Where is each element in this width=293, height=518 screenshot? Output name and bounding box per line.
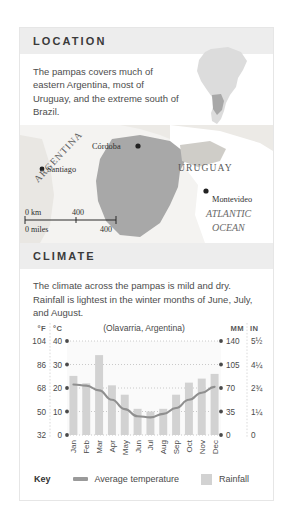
scale-km-value: 400 [72,208,84,217]
month-label: Jan [69,440,78,453]
month-label: Jun [134,440,143,453]
map-country-label: URUGUAY [178,162,233,173]
chart-legend: Key Average temperature Rainfall [20,470,273,488]
legend-item-rainfall: Rainfall [201,474,249,485]
svg-text:50: 50 [37,408,47,417]
month-label: Feb [82,439,91,453]
location-section-body: The pampas covers much of eastern Argent… [20,54,273,125]
svg-text:°F: °F [38,324,46,333]
legend-key-label: Key [34,474,51,484]
city-dot-cordoba [135,143,140,148]
month-label: Sep [172,439,181,454]
svg-text:68: 68 [37,384,47,393]
month-label: Nov [198,440,207,454]
svg-text:105: 105 [226,361,240,370]
svg-text:(Olavarria, Argentina): (Olavarria, Argentina) [103,323,185,333]
regional-map: Córdoba Santiago Montevideo ARGENTINA UR… [20,125,273,243]
month-label: Mar [95,440,104,454]
info-card: LOCATION The pampas covers much of easte… [20,28,273,500]
month-label: Jul [146,440,155,450]
svg-text:°C: °C [53,324,62,333]
location-description: The pampas covers much of eastern Argent… [33,65,183,119]
month-label: May [121,440,130,455]
svg-text:30: 30 [53,361,63,370]
legend-line-swatch [73,477,88,481]
svg-text:32: 32 [37,431,47,440]
map-city-label: Montevideo [212,195,252,204]
svg-text:140: 140 [226,337,240,346]
svg-text:20: 20 [53,384,63,393]
rainfall-bar [95,355,103,435]
rainfall-bar [121,395,129,435]
month-label: Aug [159,440,168,454]
svg-text:86: 86 [37,361,47,370]
scale-miles-value: 400 [100,225,112,234]
svg-text:104: 104 [32,337,46,346]
svg-text:10: 10 [53,408,63,417]
svg-text:4¼: 4¼ [251,361,263,370]
svg-text:70: 70 [226,384,236,393]
rainfall-bar [82,383,90,435]
month-label: Dec [211,440,220,454]
rainfall-bar [172,395,180,435]
svg-text:5½: 5½ [251,337,263,346]
legend-temperature-label: Average temperature [95,474,179,484]
svg-text:1¼: 1¼ [251,408,263,417]
map-ocean-label-2: OCEAN [212,222,246,233]
rainfall-bar [211,374,219,435]
map-city-label: Córdoba [92,142,121,151]
climate-section-header: CLIMATE [20,243,273,269]
svg-text:0: 0 [251,431,256,440]
scale-miles-label: 0 miles [25,225,48,234]
map-ocean-label: ATLANTIC [205,208,252,219]
legend-item-temperature: Average temperature [73,474,179,484]
svg-text:0: 0 [57,431,62,440]
svg-text:35: 35 [226,408,236,417]
city-dot-montevideo [203,188,208,193]
rainfall-bar [185,383,193,435]
location-header-label: LOCATION [33,35,106,47]
svg-text:40: 40 [53,337,63,346]
rainfall-bar [134,409,142,435]
climate-header-label: CLIMATE [33,250,96,262]
climate-chart: °F°CMMIN(Olavarria, Argentina)104401405½… [20,319,273,459]
svg-text:2¾: 2¾ [251,384,263,393]
scale-km-label: 0 km [25,208,42,217]
south-america-inset-map-icon [181,45,267,131]
month-label: Apr [108,440,117,453]
climate-description: The climate across the pampas is mild an… [33,279,261,320]
rainfall-bar [146,412,154,436]
svg-text:IN: IN [250,324,258,333]
legend-bar-swatch [201,474,212,485]
rainfall-bar [108,385,116,435]
svg-text:0: 0 [226,431,231,440]
legend-rainfall-label: Rainfall [219,474,249,484]
svg-text:MM: MM [231,324,244,333]
climate-section-body: The climate across the pampas is mild an… [20,269,273,500]
month-label: Oct [185,439,194,452]
rainfall-bar [198,379,206,435]
